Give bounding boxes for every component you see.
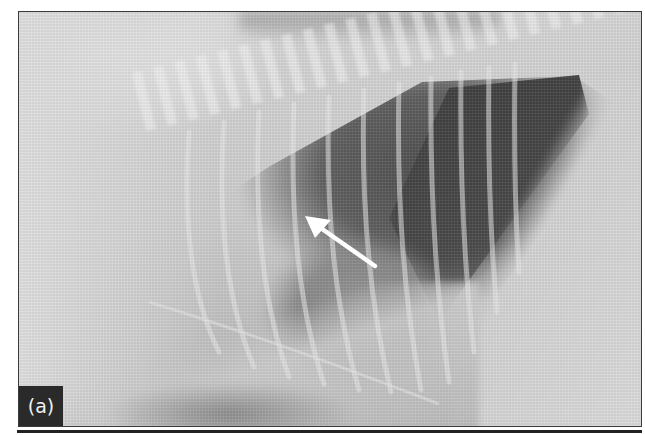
panel-label-box: (a) xyxy=(19,386,63,426)
arrow-annotation-icon xyxy=(301,210,381,270)
radiograph-image: (a) xyxy=(18,11,642,427)
bottom-rule xyxy=(17,430,642,433)
panel-label: (a) xyxy=(28,395,54,417)
